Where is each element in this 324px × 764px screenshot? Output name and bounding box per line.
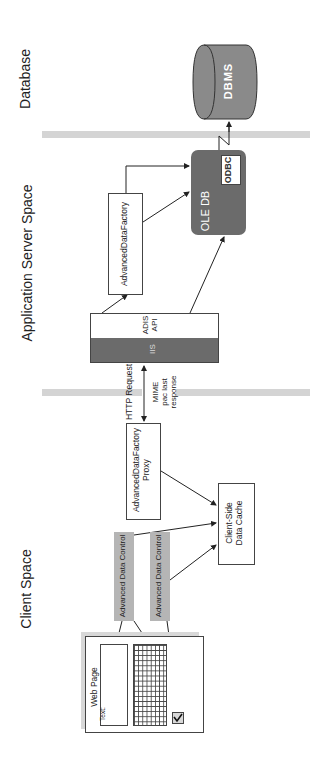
dbms-label: DBMS	[222, 56, 236, 106]
cache-label: Client-Side Data Cache	[224, 481, 248, 565]
mime-response-label: MIME pac last response	[151, 367, 181, 417]
ole-db-label: OLE DB	[199, 186, 213, 236]
text-field: Text:	[100, 644, 128, 726]
dbms-cylinder: DBMS	[190, 44, 258, 120]
advanced-data-control-2: Advanced Data Control	[150, 532, 170, 621]
cache-line2: Data Cache	[234, 481, 244, 565]
advanced-data-factory-box: AdvancedDataFactory	[108, 193, 143, 295]
client-side-data-cache-box: Client-Side Data Cache	[218, 483, 255, 565]
adc2-label: Advanced Data Control	[154, 531, 166, 621]
response-line1: MIME	[151, 367, 160, 417]
proxy-label: AdvancedDataFactory Proxy	[131, 420, 155, 520]
advanced-data-factory-label: AdvancedDataFactory	[119, 192, 133, 296]
web-page-box: Web Page Text:	[85, 636, 204, 733]
checkmark-icon	[173, 713, 183, 723]
response-line2: pac last	[160, 367, 169, 417]
proxy-line1: AdvancedDataFactory	[131, 420, 141, 520]
text-field-label: Text:	[99, 702, 109, 726]
adis-api-box: ADIS API IIS	[90, 313, 219, 363]
odbc-label: ODBC	[223, 150, 237, 190]
response-line3: response	[169, 367, 178, 417]
checkbox	[172, 712, 184, 724]
http-request-label: HTTP Request	[124, 362, 136, 422]
proxy-line2: Proxy	[141, 420, 151, 520]
odbc-box: ODBC	[221, 155, 241, 185]
adc1-label: Advanced Data Control	[118, 531, 130, 621]
ole-db-box: OLE DB ODBC	[191, 150, 246, 235]
iis-label: IIS	[148, 331, 160, 363]
advanced-data-control-1: Advanced Data Control	[114, 532, 134, 621]
advanced-data-factory-proxy-box: AdvancedDataFactory Proxy	[126, 423, 161, 520]
data-grid	[133, 644, 167, 726]
cache-line1: Client-Side	[224, 481, 234, 565]
